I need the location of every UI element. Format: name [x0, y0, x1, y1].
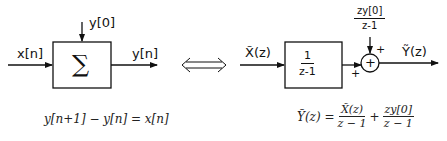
ic-numerator: zy[0] — [354, 6, 385, 19]
initial-condition-label: y[0] — [89, 16, 115, 29]
equation-lhs: Ỹ(z) = — [297, 111, 334, 123]
output-label-yn: y[n] — [132, 47, 158, 60]
transfer-function: 1 z-1 — [299, 50, 316, 77]
sign-left: + — [351, 68, 360, 79]
input-label-Xz: X̃(z) — [245, 46, 271, 59]
equation-term2: zy[0] z − 1 — [383, 104, 415, 129]
input-label-xn: x[n] — [17, 47, 43, 60]
summer-plus: + — [365, 56, 376, 69]
equivalence-arrow — [182, 58, 226, 72]
sign-top: + — [376, 44, 385, 55]
initial-condition-term: zy[0] z-1 — [354, 6, 385, 31]
transform-equation: Ỹ(z) = X̃(z) z − 1 + zy[0] z − 1 — [297, 104, 414, 129]
transfer-numerator: 1 — [301, 50, 314, 64]
output-label-Yz: Ỹ(z) — [402, 45, 427, 58]
term2-denominator: z − 1 — [384, 117, 413, 129]
term1-numerator: X̃(z) — [339, 104, 365, 117]
equation-term1: X̃(z) z − 1 — [337, 104, 366, 129]
diagram: x[n] y[0] ∑ y[n] y[n+1] − y[n] = x[n] X̃… — [0, 0, 447, 141]
term1-denominator: z − 1 — [337, 117, 366, 129]
difference-equation: y[n+1] − y[n] = x[n] — [44, 113, 169, 125]
term2-numerator: zy[0] — [383, 104, 415, 117]
ic-denominator: z-1 — [362, 19, 377, 31]
equation-plus: + — [370, 111, 380, 123]
transfer-denominator: z-1 — [299, 64, 316, 77]
sigma-symbol: ∑ — [72, 52, 89, 76]
